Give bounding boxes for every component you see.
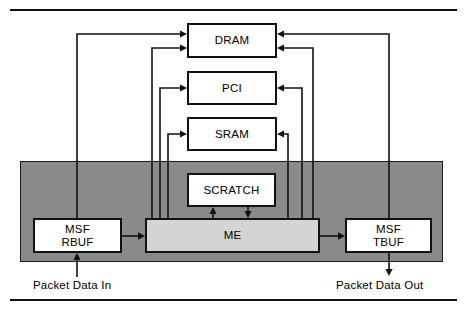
arrowhead-dram-to-me <box>277 45 284 52</box>
block-dram-label: DRAM <box>215 34 250 47</box>
arrowhead-pci-to-me <box>277 85 284 92</box>
bottom-horizontal-rule <box>10 299 457 301</box>
arrowhead-tbuf-to-dram <box>277 31 284 38</box>
arrowhead-me-to-dram <box>180 45 187 52</box>
caption-packet-data-out: Packet Data Out <box>336 279 423 291</box>
top-horizontal-rule <box>10 9 457 11</box>
block-scratch: SCRATCH <box>187 173 276 207</box>
arrowhead-packet-out <box>385 269 392 276</box>
block-me: ME <box>145 218 320 253</box>
block-msf-tbuf-line1: MSF <box>376 223 401 235</box>
block-pci: PCI <box>187 71 277 105</box>
network-processor-dataflow-diagram: DRAM PCI SRAM SCRATCH ME MSF RBUF MSF TB… <box>0 0 465 310</box>
block-dram: DRAM <box>187 23 277 58</box>
block-sram-label: SRAM <box>215 128 249 141</box>
arrowhead-sram-to-me <box>277 131 284 138</box>
block-pci-label: PCI <box>222 82 242 95</box>
block-me-label: ME <box>224 229 242 242</box>
block-sram: SRAM <box>187 117 277 151</box>
arrowhead-me-to-sram <box>180 131 187 138</box>
block-msf-tbuf: MSF TBUF <box>345 218 432 253</box>
arrowhead-rbuf-to-dram <box>180 31 187 38</box>
block-msf-rbuf-label: MSF RBUF <box>61 223 93 249</box>
block-msf-tbuf-label: MSF TBUF <box>373 223 404 249</box>
block-msf-rbuf-line2: RBUF <box>61 236 93 248</box>
caption-packet-data-in: Packet Data In <box>33 279 111 291</box>
arrowhead-me-to-pci <box>180 85 187 92</box>
block-scratch-label: SCRATCH <box>203 184 259 197</box>
block-msf-rbuf: MSF RBUF <box>33 218 122 253</box>
block-msf-rbuf-line1: MSF <box>65 223 90 235</box>
block-msf-tbuf-line2: TBUF <box>373 236 404 248</box>
